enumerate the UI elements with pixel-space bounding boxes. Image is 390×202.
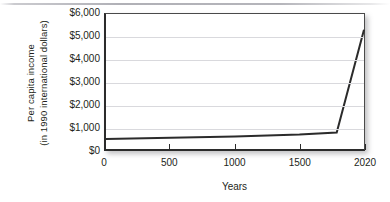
x-axis-tick-mark — [235, 144, 236, 150]
x-axis-tick-mark — [169, 144, 170, 150]
x-axis-tick-mark — [300, 144, 301, 150]
x-axis-ticks: 0500100015002020 — [0, 0, 390, 202]
x-axis-tick-label: 1500 — [289, 158, 311, 168]
x-axis-title: Years — [104, 181, 365, 192]
x-axis-tick-label: 0 — [101, 158, 107, 168]
x-axis-tick-label: 500 — [161, 158, 178, 168]
x-axis-tick-mark — [365, 144, 366, 150]
x-axis-tick-label: 2020 — [354, 158, 376, 168]
chart-figure: Per capita income (in 1990 international… — [0, 0, 390, 202]
x-axis-tick-label: 1000 — [223, 158, 245, 168]
